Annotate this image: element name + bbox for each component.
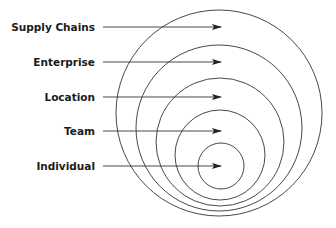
diagram-canvas — [0, 0, 336, 228]
label-team: Team — [64, 125, 95, 137]
circle-team — [175, 110, 265, 200]
label-individual: Individual — [36, 160, 95, 172]
circle-supply-chains — [116, 10, 322, 216]
label-enterprise: Enterprise — [33, 56, 95, 68]
label-supply-chains: Supply Chains — [11, 21, 95, 33]
label-location: Location — [44, 91, 95, 103]
circle-enterprise — [136, 45, 302, 211]
